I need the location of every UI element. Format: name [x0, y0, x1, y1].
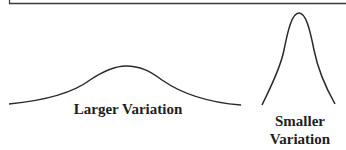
larger-variation-curve — [9, 66, 241, 105]
smaller-variation-curve — [262, 13, 335, 105]
smaller-variation-label-line1: Smaller — [262, 112, 338, 130]
larger-variation-label: Larger Variation — [70, 101, 186, 118]
variation-diagram: Larger Variation Smaller Variation — [0, 0, 346, 150]
smaller-variation-label: Smaller Variation — [262, 112, 338, 148]
smaller-variation-label-line2: Variation — [262, 130, 338, 148]
